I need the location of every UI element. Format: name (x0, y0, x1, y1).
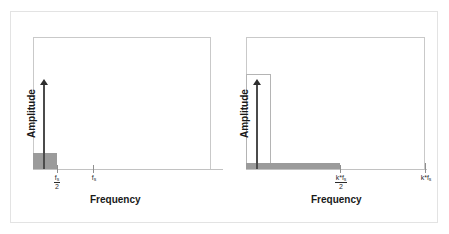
y-axis-title-right: Amplitude (239, 89, 250, 138)
arrow-shaft-signal-right (256, 84, 258, 169)
chart-panel-left: fs 2 fs Amplitude Frequency (0, 0, 225, 234)
fraction-denominator: 2 (335, 183, 348, 190)
plot-frame-left (33, 37, 211, 170)
x-axis-line-right (246, 169, 427, 170)
fraction-numerator-subscript: s (344, 176, 347, 182)
x-tick-k-fs-right (425, 163, 426, 173)
arrow-head-signal-left (40, 79, 48, 85)
x-axis-title-right: Frequency (311, 194, 362, 205)
figure-canvas: fs 2 fs Amplitude Frequency k*fs 2 (0, 0, 449, 234)
bar-noise-floor-right (246, 163, 340, 169)
tick-label-subscript: s (429, 176, 432, 182)
fraction-numerator-subscript: s (57, 176, 60, 182)
x-tick-label-k-fs-over-2-right: k*fs 2 (329, 174, 353, 191)
tick-label-base: k*f (421, 174, 429, 181)
x-tick-fs-left (93, 165, 94, 173)
y-axis-title-left: Amplitude (26, 89, 37, 138)
plot-frame-right (246, 37, 425, 170)
fraction-numerator: k*fs (335, 174, 348, 183)
fraction-k-fs-over-2-right: k*fs 2 (335, 174, 348, 191)
x-axis-title-left: Frequency (90, 194, 141, 205)
x-tick-k-fs-over-2-right (340, 165, 341, 173)
bar-noise-floor-left (33, 153, 57, 169)
x-tick-label-k-fs-right: k*fs (415, 174, 437, 182)
fraction-numerator-text: k*f (336, 174, 344, 181)
x-tick-label-fs-over-2-left: fs 2 (47, 174, 67, 191)
x-tick-label-fs-left: fs (84, 174, 104, 182)
chart-panel-right: k*fs 2 k*fs Amplitude Frequency (224, 0, 449, 234)
x-tick-fs-over-2-left (57, 165, 58, 173)
fraction-fs-over-2-left: fs 2 (54, 174, 60, 191)
arrow-shaft-signal-left (43, 84, 45, 169)
tick-label-subscript: s (94, 176, 97, 182)
x-axis-line-left (33, 169, 223, 170)
fraction-denominator: 2 (54, 183, 60, 190)
fraction-numerator: fs (54, 174, 60, 183)
arrow-head-signal-right (253, 79, 261, 85)
